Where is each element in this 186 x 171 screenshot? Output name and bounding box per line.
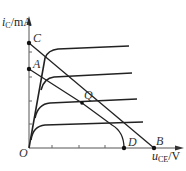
curve-1 (29, 46, 129, 148)
x-axis-label: uCE/V (152, 149, 181, 164)
label-Q: Q (84, 88, 93, 102)
load-line-AD (29, 69, 124, 148)
characteristic-diagram: C A Q D B O iC/mA uCE/V (0, 0, 186, 171)
point-A (27, 67, 31, 71)
point-D (122, 146, 126, 150)
y-axis-label: iC/mA (2, 15, 32, 30)
label-origin: O (19, 146, 28, 160)
label-B: B (156, 134, 164, 148)
ticks (29, 52, 105, 148)
label-C: C (33, 31, 42, 45)
axes (29, 22, 178, 148)
label-D: D (127, 135, 137, 149)
label-A: A (32, 57, 41, 71)
point-C (27, 41, 31, 45)
